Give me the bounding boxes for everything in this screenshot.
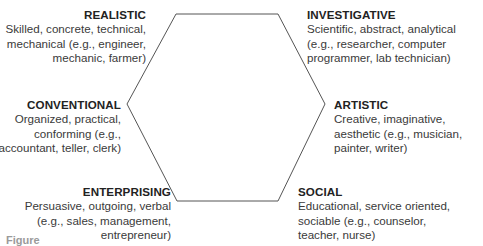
realistic-description-line: mechanic, farmer) xyxy=(6,51,146,65)
enterprising-title: ENTERPRISING xyxy=(25,185,171,199)
investigative-description-line: Scientific, abstract, analytical xyxy=(307,22,456,36)
social-type-label: SOCIAL Educational, service oriented, so… xyxy=(298,185,450,243)
investigative-description-line: (e.g., researcher, computer xyxy=(307,37,456,51)
realistic-title: REALISTIC xyxy=(6,8,146,22)
artistic-description-line: Creative, imaginative, xyxy=(334,112,462,126)
enterprising-type-label: ENTERPRISING Persuasive, outgoing, verba… xyxy=(25,185,171,243)
hexagon-outline xyxy=(127,14,325,201)
artistic-description-line: aesthetic (e.g., musician, xyxy=(334,127,462,141)
realistic-description-line: Skilled, concrete, technical, xyxy=(6,22,146,36)
social-description-line: teacher, nurse) xyxy=(298,228,450,242)
realistic-type-label: REALISTIC Skilled, concrete, technical, … xyxy=(6,8,146,66)
artistic-title: ARTISTIC xyxy=(334,98,462,112)
investigative-title: INVESTIGATIVE xyxy=(307,8,456,22)
conventional-description-line: accountant, teller, clerk) xyxy=(0,141,121,155)
realistic-description-line: mechanical (e.g., engineer, xyxy=(6,37,146,51)
conventional-description-line: Organized, practical, xyxy=(0,112,121,126)
social-description-line: sociable (e.g., counselor, xyxy=(298,214,450,228)
artistic-type-label: ARTISTIC Creative, imaginative, aestheti… xyxy=(334,98,462,156)
social-description-line: Educational, service oriented, xyxy=(298,199,450,213)
investigative-type-label: INVESTIGATIVE Scientific, abstract, anal… xyxy=(307,8,456,66)
figure-caption: Figure xyxy=(6,234,40,246)
artistic-description-line: painter, writer) xyxy=(334,141,462,155)
conventional-description-line: conforming (e.g., xyxy=(0,127,121,141)
investigative-description-line: programmer, lab technician) xyxy=(307,51,456,65)
social-title: SOCIAL xyxy=(298,185,450,199)
conventional-type-label: CONVENTIONAL Organized, practical, confo… xyxy=(0,98,121,156)
enterprising-description-line: entrepreneur) xyxy=(25,228,171,242)
enterprising-description-line: Persuasive, outgoing, verbal xyxy=(25,199,171,213)
conventional-title: CONVENTIONAL xyxy=(0,98,121,112)
enterprising-description-line: (e.g., sales, management, xyxy=(25,214,171,228)
